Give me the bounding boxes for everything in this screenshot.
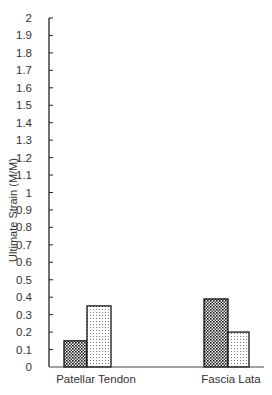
y-tick-label: 1.6 xyxy=(16,82,32,94)
y-tick-label: 0.1 xyxy=(16,344,32,356)
y-tick-label: 1.5 xyxy=(16,99,32,111)
bars xyxy=(64,299,249,367)
y-tick-label: 0 xyxy=(26,361,32,373)
y-tick-label: 1.9 xyxy=(16,29,32,41)
y-axis-label: Ultimate Strain (M/M) xyxy=(7,158,19,262)
x-category-label: Fascia Lata xyxy=(201,373,261,385)
y-axis: 00.10.20.30.40.50.60.70.80.911.11.21.31.… xyxy=(16,12,53,373)
y-tick-label: 1.8 xyxy=(16,47,32,59)
y-tick-label: 0.4 xyxy=(16,291,33,303)
x-category-label: Patellar Tendon xyxy=(56,373,136,385)
bar xyxy=(64,341,87,367)
bar-chart: 00.10.20.30.40.50.60.70.80.911.11.21.31.… xyxy=(0,0,272,395)
y-tick-label: 2 xyxy=(26,12,32,24)
y-tick-label: 1.3 xyxy=(16,134,32,146)
y-tick-label: 1.7 xyxy=(16,64,32,76)
y-tick-label: 0.3 xyxy=(16,309,32,321)
y-tick-label: 1 xyxy=(26,187,32,199)
bar xyxy=(87,306,111,367)
y-tick-label: 0.5 xyxy=(16,274,32,286)
bar xyxy=(228,332,249,367)
y-tick-label: 1.4 xyxy=(16,117,33,129)
y-tick-label: 0.2 xyxy=(16,326,32,338)
x-axis: Patellar TendonFascia Lata xyxy=(49,367,264,385)
bar xyxy=(204,299,228,367)
